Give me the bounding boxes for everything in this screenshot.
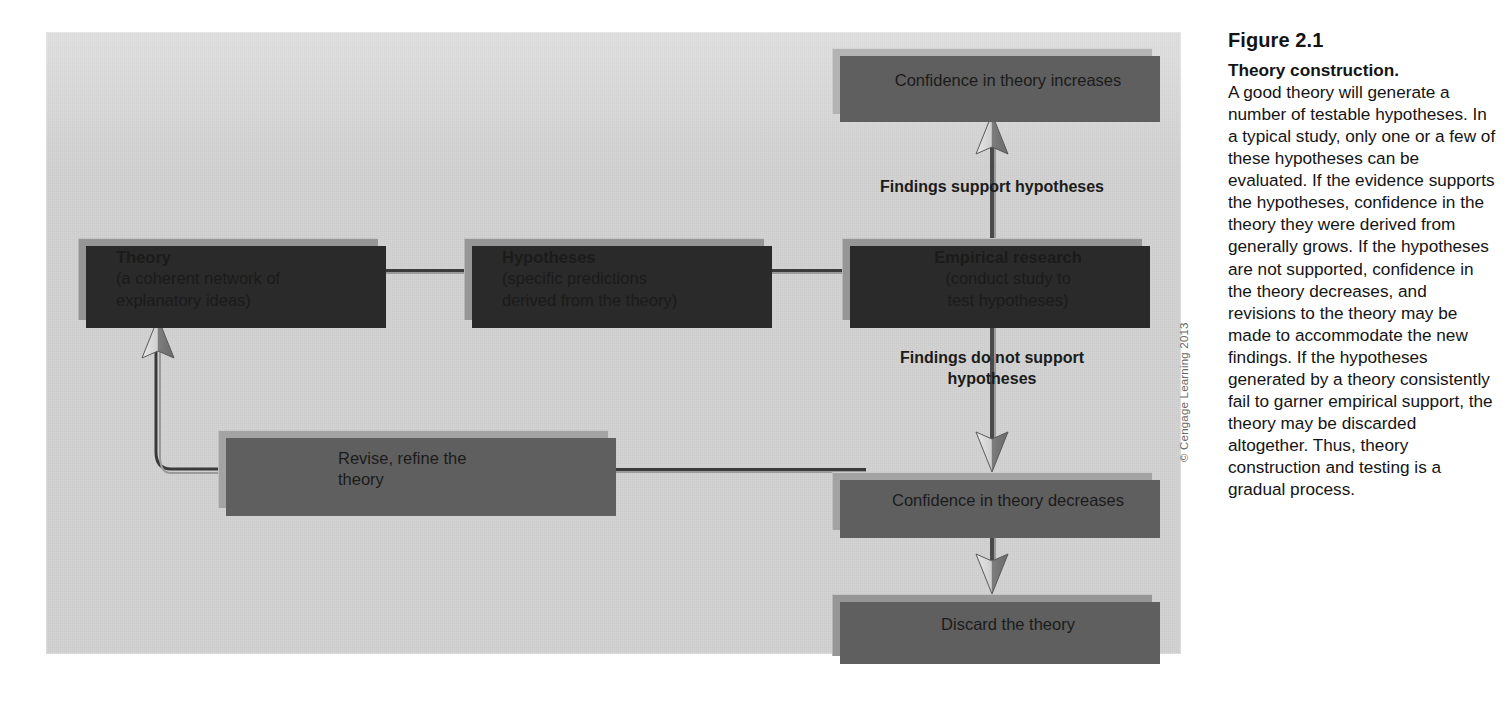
node-empirical-research-title: Empirical research (858, 247, 1158, 268)
node-hypotheses: Hypotheses (specific predictions derived… (464, 238, 764, 320)
figure-panel: Theory (a coherent network of explanator… (46, 32, 1181, 654)
figure-caption-body: A good theory will generate a number of … (1228, 82, 1495, 500)
connector-layer (46, 32, 1181, 654)
node-revise-theory-line1: Revise, refine the (338, 448, 728, 469)
node-confidence-decreases-label: Confidence in theory decreases (848, 490, 1168, 511)
node-confidence-increases: Confidence in theory increases (832, 48, 1152, 114)
node-theory: Theory (a coherent network of explanator… (78, 238, 378, 320)
node-confidence-decreases: Confidence in theory decreases (832, 472, 1152, 530)
node-hypotheses-line2: derived from the theory) (502, 290, 802, 311)
edge-label-findings-support: Findings support hypotheses (792, 177, 1192, 198)
node-theory-line2: explanatory ideas) (116, 290, 416, 311)
node-empirical-research: Empirical research (conduct study to tes… (842, 238, 1142, 320)
edge-label-findings-support-text: Findings support hypotheses (792, 177, 1192, 198)
node-hypotheses-line1: (specific predictions (502, 268, 802, 289)
copyright-credit: © Cengage Learning 2013 (1178, 322, 1190, 462)
edge-label-findings-no-support: Findings do not support hypotheses (792, 348, 1192, 390)
arrow-research-to-confidence-decreases (976, 322, 1008, 472)
node-empirical-research-line2: test hypotheses) (858, 290, 1158, 311)
node-confidence-increases-label: Confidence in theory increases (848, 70, 1168, 91)
arrow-revise-to-theory (142, 318, 218, 473)
figure-caption: Figure 2.1 Theory construction. A good t… (1228, 28, 1496, 501)
edge-label-findings-no-support-line1: Findings do not support (792, 348, 1192, 369)
edge-label-findings-no-support-line2: hypotheses (792, 369, 1192, 390)
figure-title: Theory construction. (1228, 59, 1496, 81)
node-theory-title: Theory (116, 247, 416, 268)
node-revise-theory: Revise, refine the theory (218, 430, 608, 508)
node-discard-theory: Discard the theory (832, 594, 1152, 656)
node-discard-theory-label: Discard the theory (848, 614, 1168, 635)
node-revise-theory-line2: theory (338, 469, 728, 490)
node-hypotheses-title: Hypotheses (502, 247, 802, 268)
figure-number: Figure 2.1 (1228, 29, 1323, 51)
node-theory-line1: (a coherent network of (116, 268, 416, 289)
node-empirical-research-line1: (conduct study to (858, 268, 1158, 289)
